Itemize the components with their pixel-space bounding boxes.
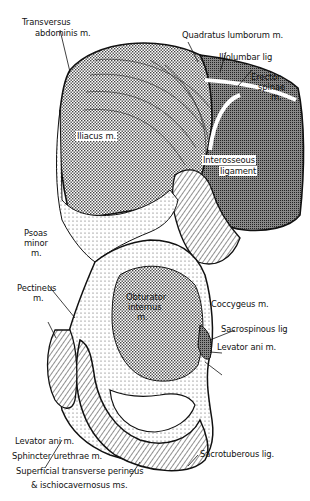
label-levator-ani-right: Levator ani m. [217,342,276,352]
label-sacrospinous: Sacrospinous lig [221,324,288,334]
label-erector-spinae-3: m. [271,92,282,102]
label-psoas-minor-2: minor [24,238,48,248]
label-transversus-abdominis-2: abdominis m. [35,28,91,38]
label-levator-ani-left: Levator ani m. [15,436,74,446]
label-erector-spinae-2: spinae [258,82,285,92]
label-sphincter-urethrae: Sphincter urethrae m. [12,451,102,461]
label-iliolumbar-lig: Iliolumbar lig [219,52,272,62]
pubic-symphysis [48,330,77,408]
label-coccygeus: Coccygeus m. [211,299,269,309]
label-obturator-internus-1: Obturator [126,292,166,302]
label-obturator-internus-2: internus [128,302,162,312]
label-transversus-abdominis-1: Transversus [22,17,71,27]
label-superficial-transverse-1: Superficial transverse perineus [16,466,143,476]
label-obturator-internus-3: m. [137,312,148,322]
label-quadratus-lumborum: Quadratus lumborum m. [182,30,283,40]
label-interosseous-2: ligament [219,166,257,176]
label-psoas-minor-1: Psoas [24,228,47,238]
label-iliacus: Iliacus m. [76,131,117,141]
label-interosseous-1: Interosseous [202,155,256,165]
label-sacrotuberous: Sacrotuberous lig. [200,449,274,459]
label-psoas-minor-3: m. [31,248,42,258]
label-superficial-transverse-2: & ischiocavernosus ms. [31,480,128,490]
label-pectineus-1: Pectineus [17,283,56,293]
label-pectineus-2: m. [33,293,44,303]
label-erector-spinae-1: Erector [251,72,280,82]
